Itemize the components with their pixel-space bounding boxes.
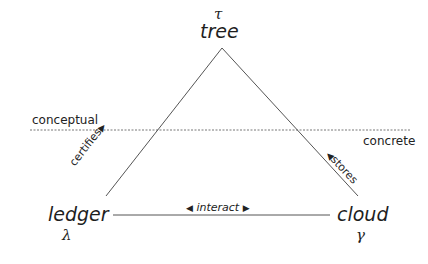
gamma-symbol: γ bbox=[356, 226, 365, 244]
edge-stores-line bbox=[222, 48, 358, 196]
edge-interact-label: ◀ interact ▶ bbox=[186, 201, 250, 214]
edge-certifies-line bbox=[106, 48, 222, 196]
region-concrete-label: concrete bbox=[363, 134, 415, 148]
ledger-symbol: λ bbox=[62, 226, 72, 244]
interact-text: interact bbox=[196, 201, 239, 214]
arrow-left-icon: ◀ bbox=[186, 203, 193, 213]
ledger-node-label: ledger bbox=[48, 203, 109, 225]
arrow-right-icon: ▶ bbox=[243, 203, 250, 213]
tree-node-label: tree bbox=[200, 20, 239, 42]
cloud-node-label: cloud bbox=[337, 203, 388, 225]
region-conceptual-label: conceptual bbox=[32, 113, 98, 127]
